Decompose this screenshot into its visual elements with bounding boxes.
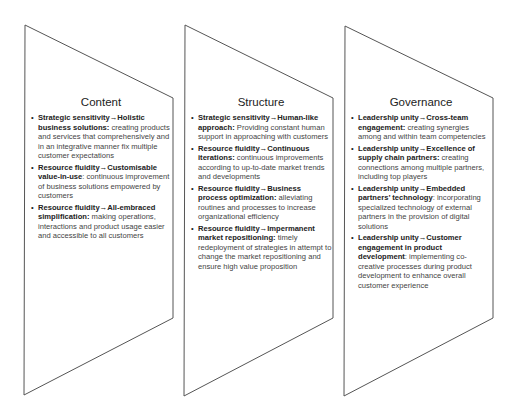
panel-title: Content bbox=[30, 96, 172, 108]
list-item: Strategic sensitivity→Holistic business … bbox=[38, 113, 172, 161]
list-item: Resource fluidity→Customisable value-in-… bbox=[38, 163, 172, 201]
panel-title: Structure bbox=[190, 96, 332, 108]
list-item: Resource fluidity→Business process optim… bbox=[198, 184, 332, 222]
list-item: Leadership unity→Embedded partners’ tech… bbox=[358, 184, 492, 232]
list-item: Resource fluidity→Impermanent market rep… bbox=[198, 224, 332, 272]
panel-title: Governance bbox=[350, 96, 492, 108]
list-item: Leadership unity→Customer engagement in … bbox=[358, 233, 492, 290]
list-item: Leadership unity→Cross-team engagement: … bbox=[358, 113, 492, 142]
governance-panel: Governance Leadership unity→Cross-team e… bbox=[350, 96, 492, 292]
list-item: Strategic sensitivity→Human-like approac… bbox=[198, 113, 332, 142]
content-panel: Content Strategic sensitivity→Holistic b… bbox=[30, 96, 172, 243]
list-item: Leadership unity→Excellence of supply ch… bbox=[358, 144, 492, 182]
structure-panel: Structure Strategic sensitivity→Human-li… bbox=[190, 96, 332, 273]
list-item: Resource fluidity→Continuous iterations:… bbox=[198, 144, 332, 182]
list-item: Resource fluidity→All-embraced simplific… bbox=[38, 203, 172, 241]
